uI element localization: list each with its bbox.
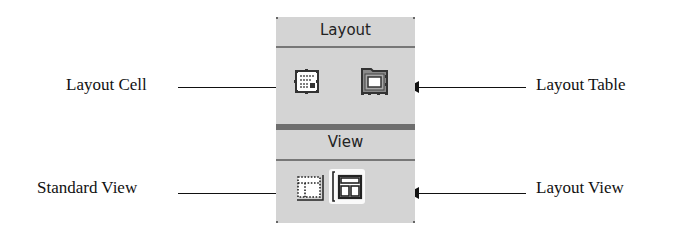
standard-view-button[interactable]	[294, 170, 326, 202]
layout-section-header: Layout	[276, 21, 415, 39]
standard-view-icon	[294, 170, 326, 202]
panel-corner	[276, 17, 278, 19]
section-divider	[276, 124, 415, 130]
callout-layout-table: Layout Table	[536, 75, 626, 95]
callout-line-layout-table	[418, 87, 526, 88]
panel-corner	[276, 221, 278, 223]
panel-corner	[413, 17, 415, 19]
layout-cell-button[interactable]	[292, 66, 324, 98]
objects-panel: Layout View	[276, 17, 415, 223]
callout-line-layout-cell	[178, 87, 278, 88]
callout-line-layout-view	[418, 193, 526, 194]
layout-cell-icon	[292, 66, 324, 98]
layout-table-button[interactable]	[359, 65, 391, 97]
view-section-header: View	[276, 133, 415, 151]
callout-line-standard-view	[178, 193, 278, 194]
layout-view-button[interactable]	[329, 169, 365, 204]
layout-view-icon	[329, 169, 365, 204]
panel-corner	[413, 221, 415, 223]
callout-standard-view: Standard View	[37, 178, 137, 198]
callout-layout-view: Layout View	[536, 178, 624, 198]
layout-header-divider	[276, 46, 415, 48]
layout-table-icon	[359, 65, 391, 97]
view-header-divider	[276, 159, 415, 161]
callout-layout-cell: Layout Cell	[66, 75, 147, 95]
